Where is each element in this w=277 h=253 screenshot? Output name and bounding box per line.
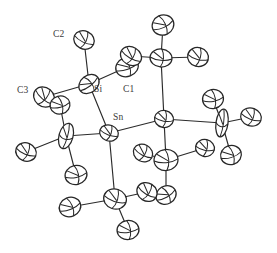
atom-label-C3: C3	[17, 85, 29, 95]
figure-background	[0, 0, 277, 253]
ortep-figure: C2C3SiC1Sn	[0, 0, 277, 253]
atom-label-C2: C2	[53, 29, 65, 39]
atom-label-Sn: Sn	[113, 112, 123, 122]
atom-label-C1: C1	[123, 84, 135, 94]
atom-label-Si: Si	[94, 84, 102, 94]
ortep-canvas: C2C3SiC1Sn	[0, 0, 277, 253]
